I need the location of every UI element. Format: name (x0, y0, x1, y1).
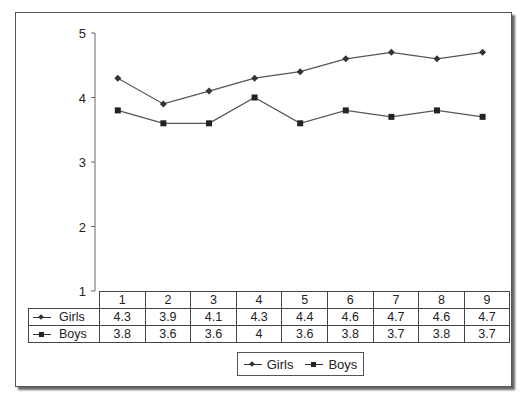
table-cell: 4.6 (419, 309, 465, 326)
table-cell: 4.6 (327, 309, 373, 326)
diamond-marker-icon (244, 360, 262, 368)
diamond-marker-icon (33, 314, 51, 322)
diamond-marker-icon (479, 49, 486, 56)
table-cell: 3.8 (327, 326, 373, 343)
legend: Girls Boys (237, 352, 364, 376)
table-header-row: 1 2 3 4 5 6 7 8 9 (29, 292, 510, 309)
data-table: 1 2 3 4 5 6 7 8 9 Girls 4.3 3.9 4.1 4.3 … (28, 291, 510, 343)
header-cell: 8 (419, 292, 465, 309)
table-cell: 4.3 (236, 309, 282, 326)
diamond-marker-icon (388, 49, 395, 56)
table-cell: 3.8 (100, 326, 146, 343)
series-line-girls (118, 52, 483, 104)
y-tick-label: 3 (79, 155, 86, 170)
diamond-marker-icon (251, 75, 258, 82)
table-row-girls: Girls 4.3 3.9 4.1 4.3 4.4 4.6 4.7 4.6 4.… (29, 309, 510, 326)
square-marker-icon (388, 114, 394, 120)
diamond-marker-icon (342, 55, 349, 62)
square-marker-icon (252, 95, 258, 101)
legend-item-girls: Girls (244, 357, 294, 372)
table-cell: 3.6 (191, 326, 237, 343)
row-label: Girls (59, 310, 85, 324)
square-marker-icon (160, 120, 166, 126)
table-cell: 3.9 (145, 309, 191, 326)
square-marker-icon (33, 331, 51, 339)
table-cell: 3.7 (464, 326, 510, 343)
diamond-marker-icon (434, 55, 441, 62)
table-cell: 4 (236, 326, 282, 343)
diamond-marker-icon (206, 88, 213, 95)
table-cell: 3.6 (282, 326, 328, 343)
square-marker-icon (305, 360, 323, 368)
table-cell: 4.7 (373, 309, 419, 326)
diamond-marker-icon (297, 68, 304, 75)
table-cell: 4.7 (464, 309, 510, 326)
diamond-marker-icon (160, 100, 167, 107)
table-cell: 3.8 (419, 326, 465, 343)
header-cell: 6 (327, 292, 373, 309)
square-marker-icon (115, 107, 121, 113)
y-tick-label: 2 (79, 220, 86, 235)
table-cell: 4.3 (100, 309, 146, 326)
table-cell: 4.4 (282, 309, 328, 326)
header-cell: 1 (100, 292, 146, 309)
square-marker-icon (343, 107, 349, 113)
square-marker-icon (480, 114, 486, 120)
header-cell: 5 (282, 292, 328, 309)
header-cell: 2 (145, 292, 191, 309)
row-label: Boys (59, 327, 87, 341)
table-cell: 3.7 (373, 326, 419, 343)
square-marker-icon (206, 120, 212, 126)
diamond-marker-icon (114, 75, 121, 82)
header-cell: 3 (191, 292, 237, 309)
legend-label: Boys (328, 357, 357, 372)
legend-item-boys: Boys (305, 357, 357, 372)
table-cell: 3.6 (145, 326, 191, 343)
header-cell: 4 (236, 292, 282, 309)
header-cell: 9 (464, 292, 510, 309)
y-tick-label: 5 (79, 26, 86, 41)
header-cell: 7 (373, 292, 419, 309)
legend-label: Girls (267, 357, 294, 372)
square-marker-icon (434, 107, 440, 113)
y-tick-label: 4 (79, 91, 86, 106)
square-marker-icon (297, 120, 303, 126)
table-row-boys: Boys 3.8 3.6 3.6 4 3.6 3.8 3.7 3.8 3.7 (29, 326, 510, 343)
table-cell: 4.1 (191, 309, 237, 326)
